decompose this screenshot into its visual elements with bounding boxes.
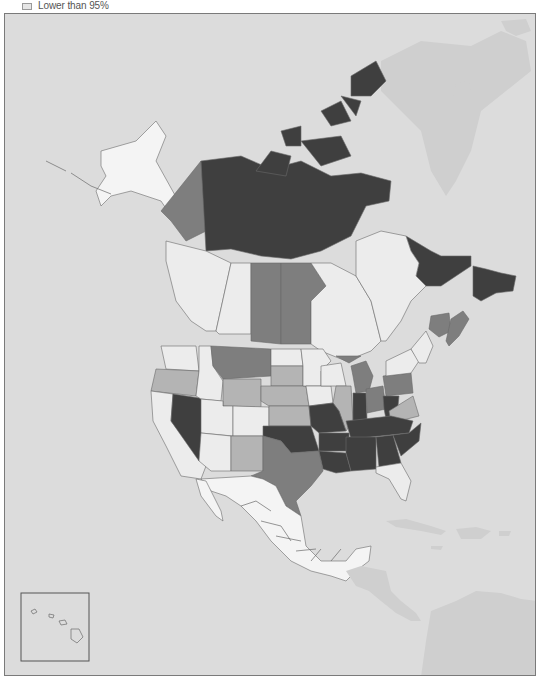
- region-new-mexico: [231, 436, 263, 471]
- region-arizona: [199, 433, 231, 471]
- legend-label: Lower than 95%: [38, 1, 109, 11]
- region-nebraska: [261, 386, 309, 406]
- region-indiana: [353, 393, 367, 421]
- region-iowa: [306, 386, 333, 406]
- region-arkansas: [319, 433, 349, 451]
- map-legend: Lower than 95%: [22, 0, 109, 12]
- region-saskatchewan: [251, 263, 281, 344]
- legend-swatch-lower-than-95: [22, 3, 32, 10]
- region-montana: [211, 346, 271, 379]
- region-north-dakota: [271, 349, 303, 366]
- region-wyoming: [223, 379, 261, 407]
- caribbean-puerto-rico: [499, 531, 511, 536]
- region-kansas: [269, 406, 311, 426]
- region-pennsylvania: [383, 373, 413, 396]
- map-frame: [4, 13, 536, 676]
- region-south-dakota: [271, 366, 303, 386]
- region-mississippi-alabama: [346, 437, 376, 471]
- region-washington: [161, 346, 199, 371]
- north-america-map: [5, 14, 536, 676]
